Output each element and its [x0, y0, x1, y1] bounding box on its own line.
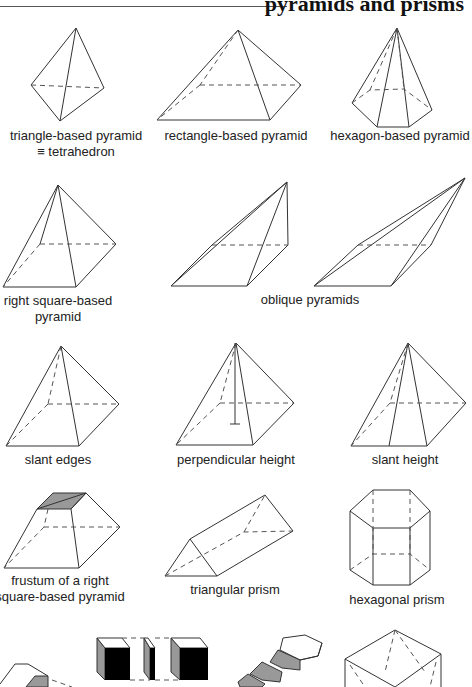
- label-line: rectangle-based pyramid: [164, 128, 307, 144]
- label-line: triangle-based pyramid: [10, 128, 142, 144]
- perpendicular-height-figure: [176, 343, 294, 445]
- label-line: frustum of a right: [0, 573, 125, 589]
- label-line: hexagonal prism: [349, 592, 444, 608]
- triangle-based-pyramid-figure: [31, 28, 104, 121]
- rectangle-based-pyramid-figure: [157, 30, 301, 120]
- hexagonal-slices-figure: [238, 635, 322, 687]
- label-line: slant height: [372, 452, 439, 468]
- figure-label-perpendicular-height: perpendicular height: [177, 452, 295, 468]
- hexagonal-prism-figure: [350, 490, 430, 585]
- figure-label-right-square-based-pyramid: right square-based pyramid: [4, 293, 112, 325]
- cuboid-slices-figure: [97, 638, 208, 680]
- figure-label-oblique-pyramids: oblique pyramids: [261, 292, 359, 308]
- label-line: right square-based: [4, 293, 112, 309]
- triangular-prism-figure: [165, 495, 293, 576]
- slant-height-figure: [351, 343, 466, 446]
- figure-label-hexagon-based-pyramid: hexagon-based pyramid: [330, 128, 469, 144]
- label-line: oblique pyramids: [261, 292, 359, 308]
- label-line: ≡ tetrahedron: [10, 144, 142, 160]
- label-line: slant edges: [25, 452, 92, 468]
- label-line: square-based pyramid: [0, 589, 125, 605]
- oblique-pyramid-2-figure: [314, 178, 465, 286]
- figure-label-hexagonal-prism: hexagonal prism: [349, 592, 444, 608]
- label-line: hexagon-based pyramid: [330, 128, 469, 144]
- frustum-figure: [4, 493, 120, 568]
- figure-label-triangular-prism: triangular prism: [190, 582, 280, 598]
- figure-label-slant-edges: slant edges: [25, 452, 92, 468]
- oblique-pyramid-1-figure: [171, 182, 288, 286]
- slant-edges-figure: [6, 346, 119, 446]
- label-line: perpendicular height: [177, 452, 295, 468]
- right-square-based-pyramid-figure: [3, 185, 116, 287]
- figure-label-triangle-based-pyramid: triangle-based pyramid ≡ tetrahedron: [10, 128, 142, 160]
- figure-label-frustum: frustum of a right square-based pyramid: [0, 573, 125, 605]
- label-line: pyramid: [4, 309, 112, 325]
- figure-label-slant-height: slant height: [372, 452, 439, 468]
- label-line: triangular prism: [190, 582, 280, 598]
- hexagonal-prism-slice-figure: [0, 664, 72, 687]
- figure-label-rectangle-based-pyramid: rectangle-based pyramid: [164, 128, 307, 144]
- hexagon-based-pyramid-figure: [352, 28, 432, 127]
- square-pyramid-in-cube-figure: [345, 630, 441, 687]
